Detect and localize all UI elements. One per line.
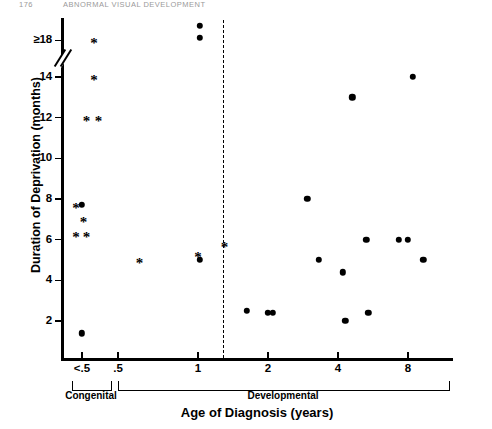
y-tick xyxy=(55,239,62,241)
group-bracket-label: Developmental xyxy=(203,390,363,401)
data-point-circle xyxy=(197,35,203,41)
data-point-circle xyxy=(342,318,348,324)
data-point-asterisk: * xyxy=(194,249,202,264)
data-point-circle xyxy=(363,236,369,242)
scatter-plot: ≥181412108642 <.5.51248 *********** Dura… xyxy=(0,0,492,429)
data-point-asterisk: * xyxy=(90,73,98,88)
data-point-circle xyxy=(405,236,411,242)
y-tick-label: 14 xyxy=(0,70,52,82)
data-point-asterisk: * xyxy=(72,201,80,216)
y-axis-break-icon xyxy=(52,47,72,71)
y-tick-label: 10 xyxy=(0,151,52,163)
data-point-circle xyxy=(410,74,416,80)
x-tick xyxy=(81,352,83,359)
y-tick-label: ≥18 xyxy=(0,33,52,45)
x-tick-label: 8 xyxy=(382,362,434,374)
data-point-asterisk: * xyxy=(95,113,103,128)
y-tick-label: 2 xyxy=(0,314,52,326)
x-tick xyxy=(117,352,119,359)
y-tick-label-text: 8 xyxy=(46,192,52,204)
y-tick-label-text: 2 xyxy=(46,314,52,326)
y-tick-label: 4 xyxy=(0,273,52,285)
data-point-circle xyxy=(197,23,203,29)
data-point-circle xyxy=(304,196,310,202)
y-axis-title: Duration of Deprivation (months) xyxy=(29,60,43,290)
x-tick-label: 4 xyxy=(312,362,364,374)
x-tick xyxy=(407,352,409,359)
x-tick-label: .5 xyxy=(92,362,144,374)
x-tick xyxy=(197,352,199,359)
x-tick xyxy=(337,352,339,359)
data-point-asterisk: * xyxy=(221,239,229,254)
y-tick-label: 12 xyxy=(0,111,52,123)
data-point-circle xyxy=(79,330,85,336)
y-tick xyxy=(55,198,62,200)
data-point-circle xyxy=(396,236,402,242)
y-tick-label-text: 6 xyxy=(46,233,52,245)
data-point-circle xyxy=(420,257,426,263)
y-tick-label: 8 xyxy=(0,192,52,204)
y-tick xyxy=(55,117,62,119)
data-point-asterisk: * xyxy=(90,36,98,51)
data-point-circle xyxy=(270,310,276,316)
y-tick-label-text: 4 xyxy=(46,273,52,285)
y-tick xyxy=(55,158,62,160)
group-bracket-label: Congenital xyxy=(11,390,171,401)
y-tick xyxy=(55,320,62,322)
x-axis-title: Age of Diagnosis (years) xyxy=(61,405,453,420)
y-tick-label: 6 xyxy=(0,233,52,245)
data-point-circle xyxy=(244,308,250,314)
y-tick-label-text: ≥18 xyxy=(33,33,52,45)
data-point-asterisk: * xyxy=(83,113,91,128)
y-tick xyxy=(55,40,62,42)
data-point-circle xyxy=(365,310,371,316)
data-point-circle xyxy=(340,269,346,275)
x-tick xyxy=(267,352,269,359)
data-point-circle xyxy=(349,94,355,100)
group-divider-line xyxy=(223,20,224,358)
x-tick-label: 2 xyxy=(242,362,294,374)
data-point-asterisk: * xyxy=(72,229,80,244)
y-tick xyxy=(55,280,62,282)
x-tick-label: 1 xyxy=(172,362,224,374)
x-axis-line xyxy=(61,358,453,361)
data-point-circle xyxy=(79,202,85,208)
y-tick xyxy=(55,76,62,78)
data-point-asterisk: * xyxy=(83,229,91,244)
data-point-asterisk: * xyxy=(136,256,144,271)
data-point-circle xyxy=(315,257,321,263)
